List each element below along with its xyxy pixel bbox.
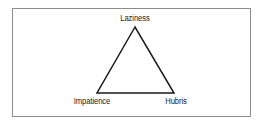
vertex-label-impatience: Impatience — [74, 96, 111, 106]
figure-border — [12, 8, 251, 117]
figure-container: Laziness Impatience Hubris — [0, 0, 265, 125]
vertex-label-laziness: Laziness — [120, 13, 149, 23]
vertex-label-hubris: Hubris — [165, 96, 187, 106]
